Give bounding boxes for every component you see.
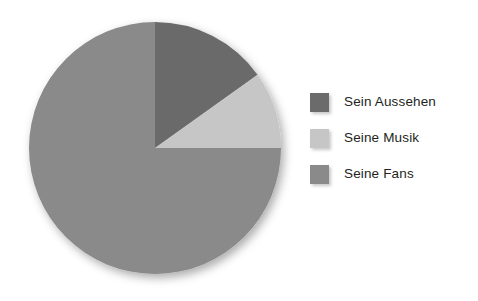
legend: Sein Aussehen Seine Musik Seine Fans: [310, 84, 478, 192]
pie-chart: Sein Aussehen Seine Musik Seine Fans: [0, 0, 478, 301]
legend-swatch-sein-aussehen: [310, 93, 329, 112]
legend-label-seine-fans: Seine Fans: [344, 167, 414, 181]
legend-item-seine-fans[interactable]: Seine Fans: [310, 156, 478, 192]
pie-svg: [0, 0, 300, 301]
legend-item-sein-aussehen[interactable]: Sein Aussehen: [310, 84, 478, 120]
pie-slices: [29, 22, 281, 274]
legend-item-seine-musik[interactable]: Seine Musik: [310, 120, 478, 156]
legend-label-sein-aussehen: Sein Aussehen: [344, 95, 436, 109]
legend-swatch-seine-fans: [310, 165, 329, 184]
pie-area: [0, 0, 300, 301]
legend-swatch-seine-musik: [310, 129, 329, 148]
legend-label-seine-musik: Seine Musik: [344, 131, 419, 145]
